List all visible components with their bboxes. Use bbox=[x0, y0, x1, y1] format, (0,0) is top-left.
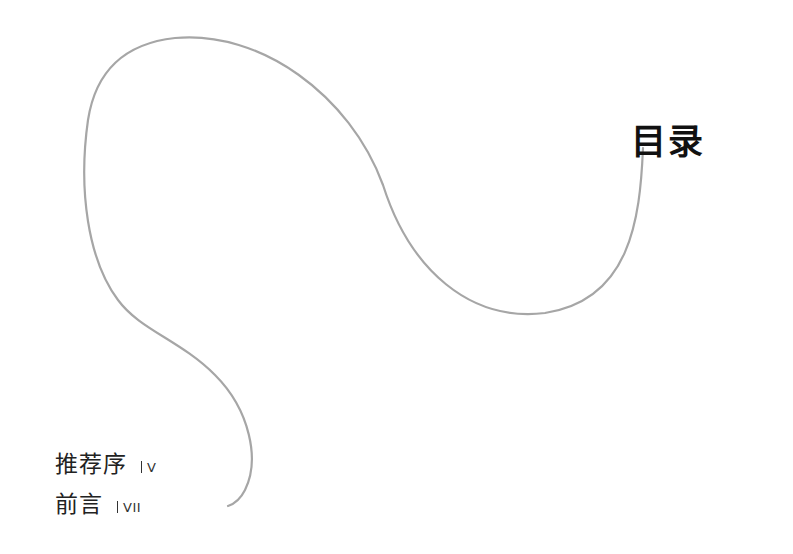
toc-page: 目录 推荐序 V 前言 VII bbox=[0, 0, 793, 554]
page-separator bbox=[141, 461, 142, 473]
toc-entry-title: 前言 bbox=[55, 489, 103, 519]
page-separator bbox=[117, 501, 118, 513]
toc-entry-title: 推荐序 bbox=[55, 449, 127, 479]
toc-entry-recommendation[interactable]: 推荐序 V bbox=[55, 449, 156, 479]
toc-entry-preface[interactable]: 前言 VII bbox=[55, 489, 141, 519]
toc-entry-page-number: V bbox=[147, 461, 156, 475]
toc-entry-page-number: VII bbox=[123, 501, 141, 515]
toc-heading: 目录 bbox=[631, 120, 705, 164]
